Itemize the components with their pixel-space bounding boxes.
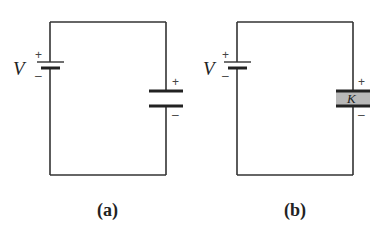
- circuit-b: V + – K + – (b): [203, 22, 370, 221]
- battery-minus-a: –: [35, 69, 42, 83]
- caption-b: (b): [284, 200, 306, 221]
- capacitor-plus-a: +: [172, 75, 179, 89]
- circuit-a: V + – + – (a): [13, 22, 183, 221]
- battery-label-b: V: [203, 58, 217, 79]
- battery-plus-b: +: [222, 48, 229, 62]
- battery-minus-b: –: [222, 69, 229, 83]
- circuit-diagram: V + – + – (a) V + –: [0, 0, 382, 232]
- capacitor-plus-b: +: [358, 75, 365, 89]
- capacitor-minus-b: –: [358, 108, 365, 122]
- capacitor-minus-a: –: [172, 108, 179, 122]
- battery-label-a: V: [13, 58, 27, 79]
- battery-plus-a: +: [35, 48, 42, 62]
- wires-b: [237, 22, 353, 175]
- dielectric-label: K: [346, 91, 357, 106]
- capacitor-a: [149, 91, 183, 106]
- wires-a: [50, 22, 166, 175]
- battery-a: [37, 62, 64, 68]
- battery-b: [224, 62, 251, 68]
- caption-a: (a): [97, 200, 118, 221]
